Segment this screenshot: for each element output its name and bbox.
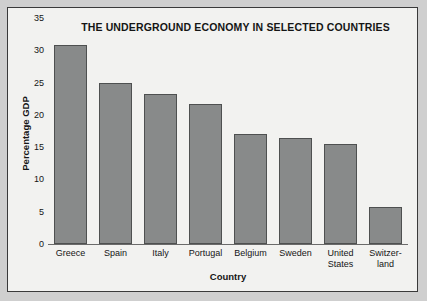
bar-slot <box>273 18 318 244</box>
bar-slot <box>363 18 408 244</box>
bar-series <box>48 18 408 244</box>
x-tick-label: Portugal <box>183 248 228 269</box>
y-tick-label: 5 <box>14 207 44 217</box>
x-tick-label: Italy <box>138 248 183 269</box>
y-tick-label: 35 <box>14 13 44 23</box>
y-tick-label: 30 <box>14 45 44 55</box>
bar-slot <box>93 18 138 244</box>
bar[interactable] <box>279 138 312 244</box>
y-tick-label: 0 <box>14 239 44 249</box>
x-tick-label: Switzer-land <box>363 248 408 269</box>
x-tick-label-line: United <box>318 248 363 259</box>
x-tick-label: Belgium <box>228 248 273 269</box>
x-axis-line <box>48 244 408 245</box>
y-tick-label: 20 <box>14 110 44 120</box>
bar[interactable] <box>144 94 177 244</box>
bar[interactable] <box>234 134 267 244</box>
x-tick-label-line: Sweden <box>273 248 318 259</box>
x-tick-label: Greece <box>48 248 93 269</box>
x-tick-label: Sweden <box>273 248 318 269</box>
chart-figure: THE UNDERGROUND ECONOMY IN SELECTED COUN… <box>7 7 418 292</box>
x-tick-label-line: Spain <box>93 248 138 259</box>
x-tick-label-line: land <box>363 259 408 270</box>
bar[interactable] <box>324 144 357 244</box>
x-tick-label-line: Belgium <box>228 248 273 259</box>
bar-slot <box>228 18 273 244</box>
bar[interactable] <box>54 45 87 244</box>
x-tick-label-line: Switzer- <box>363 248 408 259</box>
y-tick-label: 10 <box>14 174 44 184</box>
bar-slot <box>138 18 183 244</box>
bar-slot <box>183 18 228 244</box>
x-tick-label: UnitedStates <box>318 248 363 269</box>
x-tick-label: Spain <box>93 248 138 269</box>
x-tick-label-line: Portugal <box>183 248 228 259</box>
bar[interactable] <box>189 104 222 244</box>
plot-area <box>48 18 408 244</box>
bar-slot <box>318 18 363 244</box>
x-tick-label-line: States <box>318 259 363 270</box>
y-tick-label: 25 <box>14 78 44 88</box>
x-axis-label: Country <box>48 271 408 282</box>
bar[interactable] <box>99 83 132 244</box>
y-tick-label: 15 <box>14 142 44 152</box>
x-axis-ticks: GreeceSpainItalyPortugalBelgiumSwedenUni… <box>48 248 408 269</box>
bar[interactable] <box>369 207 402 244</box>
bar-slot <box>48 18 93 244</box>
x-tick-label-line: Greece <box>48 248 93 259</box>
x-tick-label-line: Italy <box>138 248 183 259</box>
